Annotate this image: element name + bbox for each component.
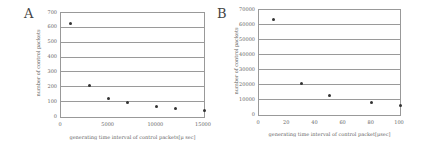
x-axis-label-b: generating time interval of control pack… (258, 131, 401, 137)
y-tick-label: 20000 (233, 81, 255, 87)
panel-letter-b: B (217, 6, 227, 21)
chart-panel-b: B number of control packets generating t… (0, 0, 422, 148)
x-tick-label: 20 (274, 119, 298, 125)
data-point (399, 104, 402, 107)
x-tick-label: 80 (359, 119, 383, 125)
x-tick-label: 60 (331, 119, 355, 125)
gridline (259, 99, 400, 100)
y-axis-label-b: number of control packets (233, 21, 239, 101)
plot-area-b (258, 9, 401, 116)
gridline (259, 54, 400, 55)
y-tick-label: 0 (233, 111, 255, 117)
data-point (328, 94, 331, 97)
y-tick-label: 40000 (233, 51, 255, 57)
gridline (259, 84, 400, 85)
y-tick-label: 10000 (233, 96, 255, 102)
data-point (272, 18, 275, 21)
y-tick-label: 50000 (233, 36, 255, 42)
data-point (300, 82, 303, 85)
x-tick-label: 0 (246, 119, 270, 125)
y-tick-label: 30000 (233, 66, 255, 72)
x-tick-label: 40 (302, 119, 326, 125)
gridline (259, 69, 400, 70)
data-point (370, 101, 373, 104)
x-tick-label: 100 (387, 119, 411, 125)
y-tick-label: 70000 (233, 6, 255, 12)
gridline (259, 24, 400, 25)
y-tick-label: 60000 (233, 21, 255, 27)
gridline (259, 39, 400, 40)
